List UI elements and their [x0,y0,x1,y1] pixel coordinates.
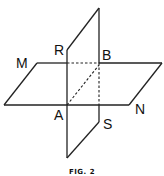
plane-rs-top-edge [67,8,99,50]
label-m: M [16,55,28,71]
label-a: A [54,107,64,123]
figure-caption: FIG. 2 [69,168,95,176]
label-r: R [54,42,64,58]
label-s: S [103,116,112,132]
intersection-line-ab [67,65,99,105]
intersecting-planes-diagram: M R B A S N FIG. 2 [0,0,164,176]
plane-rs-bottom-edge [67,122,99,158]
label-b: B [102,47,111,63]
plane-mn-right-edge [129,63,162,105]
label-n: N [135,101,145,117]
